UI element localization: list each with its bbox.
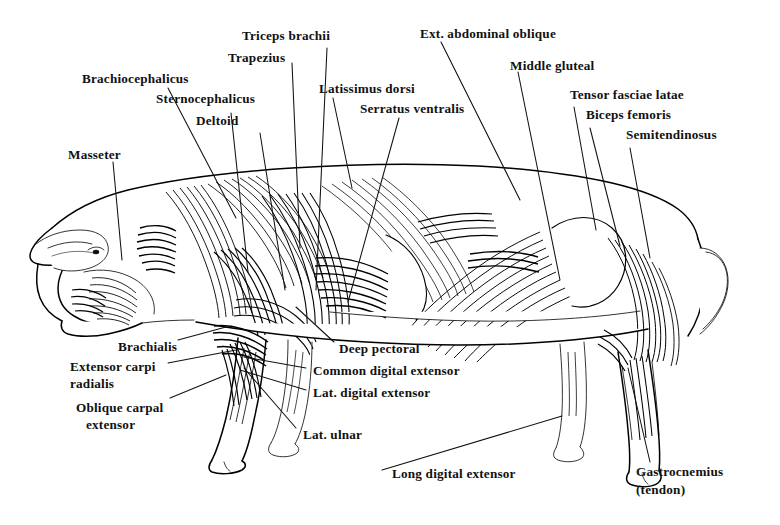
label-tensor-fasciae-latae: Tensor fasciae latae (570, 87, 684, 102)
label-trapezius: Trapezius (228, 50, 285, 65)
label-semitendinosus: Semitendinosus (626, 127, 717, 142)
label-extensor-carpi-radialis-line1: Extensor carpi (70, 359, 156, 374)
label-gastrocnemius-line1: Gastrocnemius (636, 464, 723, 479)
label-lat-ulnar: Lat. ulnar (303, 427, 362, 442)
label-deltoid: Deltoid (196, 113, 239, 128)
label-brachiocephalicus: Brachiocephalicus (82, 71, 189, 86)
label-serratus-ventralis: Serratus ventralis (360, 101, 464, 116)
label-long-digital-extensor: Long digital extensor (392, 466, 516, 481)
label-deep-pectoral: Deep pectoral (339, 341, 420, 356)
label-lat-digital-extensor: Lat. digital extensor (313, 385, 430, 400)
label-oblique-carpal-extensor-line1: Oblique carpal (76, 400, 164, 415)
label-gastrocnemius-line2: (tendon) (636, 482, 685, 497)
pig-musculature-drawing: Masseter Brachiocephalicus Sternocephali… (0, 0, 780, 525)
label-triceps-brachii: Triceps brachii (242, 28, 330, 43)
label-extensor-carpi-radialis-line2: radialis (70, 376, 114, 391)
label-oblique-carpal-extensor-line2: extensor (86, 417, 135, 432)
label-middle-gluteal: Middle gluteal (510, 58, 595, 73)
label-biceps-femoris: Biceps femoris (586, 107, 671, 122)
label-masseter: Masseter (68, 147, 121, 162)
label-sternocephalicus: Sternocephalicus (156, 91, 255, 106)
anatomical-figure: Masseter Brachiocephalicus Sternocephali… (0, 0, 780, 525)
label-common-digital-extensor: Common digital extensor (313, 363, 460, 378)
label-latissimus-dorsi: Latissimus dorsi (319, 81, 415, 96)
label-brachialis: Brachialis (118, 339, 177, 354)
label-ext-abdominal-oblique: Ext. abdominal oblique (420, 26, 556, 41)
